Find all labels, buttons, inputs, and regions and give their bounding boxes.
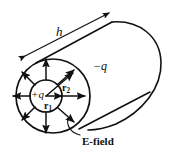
length-dimension-arrow xyxy=(25,13,109,56)
diagram-canvas xyxy=(0,0,174,157)
outer-charge-label: −q xyxy=(93,60,107,72)
e-field-label: E-field xyxy=(82,136,114,147)
inner-charge-label: +q xyxy=(31,89,44,100)
cylinder-body xyxy=(36,22,161,130)
physics-diagram-figure: h −q +q r1 r2 E-field xyxy=(0,0,174,157)
e-field-arrow-nw xyxy=(22,72,35,85)
e-field-arrow-se xyxy=(58,108,75,123)
outer-radius-label: r2 xyxy=(62,83,70,95)
e-field-arrow-sw xyxy=(22,107,35,120)
inner-radius-subscript: 1 xyxy=(48,105,52,113)
h-double-arrow xyxy=(25,13,109,56)
inner-radius-label: r1 xyxy=(44,101,52,113)
outer-radius-subscript: 2 xyxy=(66,87,70,95)
cylinder-end-cap xyxy=(88,22,161,130)
cylinder-top-edge xyxy=(36,22,112,63)
length-label-h: h xyxy=(56,25,63,38)
